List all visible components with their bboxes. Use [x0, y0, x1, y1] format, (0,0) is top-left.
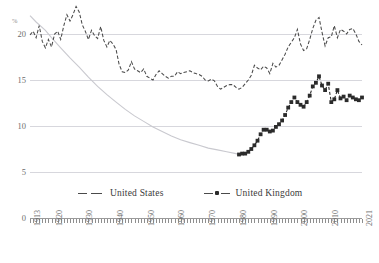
- x-axis-tick-label: 1920: [56, 210, 64, 226]
- data-point-marker: [308, 94, 312, 98]
- axis-tick: [30, 219, 31, 223]
- data-point-marker: [256, 139, 260, 143]
- data-point-marker: [259, 132, 263, 136]
- axis-tick: [267, 219, 268, 223]
- legend-label-united-kingdom: United Kingdom: [236, 188, 303, 198]
- axis-tick: [70, 219, 71, 223]
- axis-tick: [350, 219, 351, 223]
- axis-tick: [230, 219, 231, 223]
- axis-tick: [251, 219, 252, 223]
- axis-tick: [236, 219, 237, 223]
- data-point-marker: [320, 84, 324, 88]
- axis-tick: [202, 219, 203, 223]
- legend-label-united-states: United States: [110, 188, 164, 198]
- axis-tick: [128, 219, 129, 223]
- data-point-marker: [271, 129, 275, 133]
- legend-dash-icon: [78, 189, 104, 198]
- data-point-marker: [317, 74, 321, 78]
- legend-dash-marker-icon: [204, 189, 230, 198]
- axis-tick: [144, 219, 145, 223]
- axis-tick: [356, 219, 357, 223]
- axis-tick: [288, 219, 289, 223]
- axis-tick: [110, 219, 111, 223]
- chart-legend: United States United Kingdom: [78, 188, 302, 198]
- data-point-marker: [293, 96, 297, 100]
- axis-tick: [131, 219, 132, 223]
- data-point-marker: [311, 85, 315, 89]
- data-point-marker: [286, 106, 290, 110]
- axis-tick: [190, 219, 191, 223]
- axis-tick: [261, 219, 262, 223]
- axis-tick: [316, 219, 317, 223]
- axis-tick: [328, 219, 329, 223]
- x-axis-tick-label: 2010: [332, 210, 340, 226]
- data-point-marker: [336, 88, 340, 92]
- legend-item-united-states[interactable]: United States: [78, 188, 164, 198]
- axis-tick: [362, 219, 363, 223]
- axis-tick: [254, 219, 255, 223]
- axis-tick: [322, 219, 323, 223]
- axis-tick: [227, 219, 228, 223]
- x-axis-tick-label: 1980: [240, 210, 248, 226]
- axis-tick: [162, 219, 163, 223]
- data-point-marker: [283, 113, 287, 117]
- axis-tick: [285, 219, 286, 223]
- axis-tick: [52, 219, 53, 223]
- x-axis-tick-label: 1990: [271, 210, 279, 226]
- x-axis-tick-label: 1950: [148, 210, 156, 226]
- legend-item-united-kingdom[interactable]: United Kingdom: [204, 188, 303, 198]
- data-point-marker: [323, 88, 327, 92]
- axis-tick: [199, 219, 200, 223]
- series-line: [239, 76, 362, 154]
- axis-tick: [310, 219, 311, 223]
- axis-tick: [248, 219, 249, 223]
- x-axis-tick-label: 2000: [301, 210, 309, 226]
- axis-tick: [319, 219, 320, 223]
- data-point-marker: [302, 105, 306, 109]
- data-point-marker: [342, 95, 346, 99]
- income-share-chart: % 20151050 19131920193019401950196019701…: [0, 0, 379, 263]
- axis-tick: [95, 219, 96, 223]
- data-point-marker: [289, 100, 293, 104]
- data-point-marker: [332, 97, 336, 101]
- axis-tick: [291, 219, 292, 223]
- axis-tick: [205, 219, 206, 223]
- data-point-marker: [345, 98, 349, 102]
- axis-tick: [359, 219, 360, 223]
- axis-tick: [159, 219, 160, 223]
- axis-tick: [297, 219, 298, 223]
- axis-tick: [279, 219, 280, 223]
- axis-tick: [165, 219, 166, 223]
- axis-tick: [138, 219, 139, 223]
- axis-tick: [258, 219, 259, 223]
- x-axis-tick-label: 1913: [34, 210, 42, 226]
- series-line: [30, 6, 362, 89]
- axis-tick: [294, 219, 295, 223]
- axis-tick: [67, 219, 68, 223]
- axis-tick: [107, 219, 108, 223]
- axis-tick: [113, 219, 114, 223]
- axis-tick: [48, 219, 49, 223]
- data-point-marker: [314, 81, 318, 85]
- x-axis-tick-label: 1970: [209, 210, 217, 226]
- axis-tick: [196, 219, 197, 223]
- axis-tick: [218, 219, 219, 223]
- axis-tick: [341, 219, 342, 223]
- axis-tick: [264, 219, 265, 223]
- axis-tick: [175, 219, 176, 223]
- data-point-marker: [253, 143, 257, 147]
- axis-tick: [98, 219, 99, 223]
- data-point-marker: [277, 122, 281, 126]
- data-point-marker: [360, 96, 364, 100]
- axis-tick: [104, 219, 105, 223]
- axis-tick: [313, 219, 314, 223]
- axis-tick: [193, 219, 194, 223]
- axis-tick: [76, 219, 77, 223]
- data-point-marker: [280, 119, 284, 123]
- axis-tick: [42, 219, 43, 223]
- axis-tick: [101, 219, 102, 223]
- axis-tick: [224, 219, 225, 223]
- axis-tick: [187, 219, 188, 223]
- data-point-marker: [326, 82, 330, 86]
- axis-tick: [325, 219, 326, 223]
